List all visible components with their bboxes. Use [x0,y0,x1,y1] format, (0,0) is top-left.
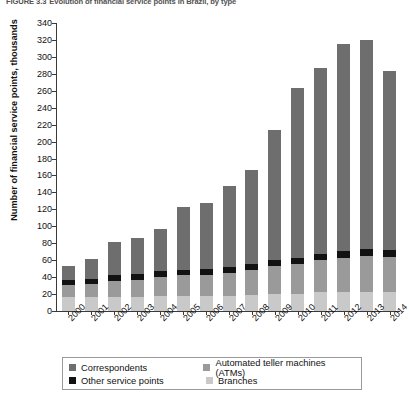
bar-segment [177,207,190,270]
legend-item-other-service-points: Other service points [69,376,206,386]
y-axis-tick-label: 300 [0,52,58,62]
bar-segment [131,280,144,297]
legend-item-atms: Automated teller machines (ATMs) [203,358,355,378]
y-axis-tick-label: 200 [0,137,58,147]
bar-2000 [62,266,75,311]
bar-segment [337,44,350,251]
y-axis-tick-mark [52,57,56,58]
bar-2009 [268,130,281,311]
y-axis-tick-mark [52,159,56,160]
bar-segment [200,203,213,268]
y-axis-tick-mark [52,294,56,295]
y-axis-tick-label: 60 [0,255,58,265]
bar-2013 [360,40,373,311]
y-axis-tick-mark [52,142,56,143]
bar-segment [291,264,304,294]
bar-segment [245,170,258,265]
bar-segment [383,257,396,292]
y-axis-tick-mark [52,243,56,244]
y-axis-tick-label: 80 [0,238,58,248]
bar-2004 [154,229,167,311]
bar-segment [337,258,350,292]
y-axis-tick-mark [52,277,56,278]
bar-2007 [223,186,236,311]
bar-segment [314,68,327,254]
bar-2012 [337,44,350,311]
figure-title: FIGURE 3.3Evolution of financial service… [6,0,402,9]
bar-segment [62,285,75,298]
bar-2003 [131,238,144,311]
y-axis-tick-label: 240 [0,103,58,113]
bar-segment [108,281,121,297]
y-axis-tick-mark [52,108,56,109]
bar-segment [62,266,75,280]
bar-segment [360,40,373,249]
bar-2006 [200,203,213,311]
y-axis-tick-mark [52,74,56,75]
y-axis-tick-label: 120 [0,204,58,214]
y-axis-tick-label: 180 [0,154,58,164]
bar-segment [154,277,167,296]
legend-swatch-atms [203,364,210,371]
bar-segment [360,256,373,292]
legend-row: Correspondents Automated teller machines… [69,361,355,374]
y-axis-tick-mark [52,91,56,92]
y-axis-tick-label: 0 [0,306,58,316]
y-axis-tick-label: 320 [0,35,58,45]
plot-region [57,23,400,311]
legend-label-other-service-points: Other service points [81,376,164,386]
bar-segment [85,259,98,278]
bar-segment [177,275,190,295]
bar-2014 [383,71,396,311]
bar-2010 [291,88,304,311]
bar-segment [108,242,121,275]
y-axis-tick-label: 20 [0,289,58,299]
y-axis-tick-label: 260 [0,86,58,96]
chart-area: Number of financial service points, thou… [0,14,406,314]
y-axis-tick-mark [52,192,56,193]
y-axis-tick-mark [52,125,56,126]
bar-2008 [245,170,258,311]
bar-segment [268,266,281,294]
bar-segment [268,130,281,260]
y-axis-tick-label: 160 [0,170,58,180]
bar-segment [245,270,258,295]
legend-label-branches: Branches [218,376,257,386]
bar-2011 [314,68,327,311]
y-axis-tick-label: 100 [0,221,58,231]
legend-swatch-branches [206,377,213,384]
figure-title-text: Evolution of financial service points in… [49,0,236,6]
legend-item-correspondents: Correspondents [69,363,203,373]
bar-segment [383,250,396,257]
legend-swatch-other-service-points [69,377,76,384]
legend-item-branches: Branches [206,376,257,386]
y-axis-tick-mark [52,260,56,261]
y-axis-tick-label: 140 [0,187,58,197]
bar-segment [360,249,373,256]
y-axis-tick-label: 340 [0,18,58,28]
y-axis-tick-mark [52,226,56,227]
bar-segment [223,273,236,296]
bar-segment [291,88,304,257]
y-axis-tick-mark [52,40,56,41]
bar-segment [383,71,396,250]
bar-segment [154,229,167,271]
y-axis-tick-mark [52,175,56,176]
bar-2005 [177,207,190,311]
bar-segment [337,251,350,258]
bar-segment [314,260,327,292]
bar-2002 [108,242,121,311]
y-axis-tick-label: 40 [0,272,58,282]
legend-label-atms: Automated teller machines (ATMs) [215,358,355,378]
y-axis-tick-label: 280 [0,69,58,79]
y-axis-tick-mark [52,209,56,210]
bar-2001 [85,259,98,311]
legend-swatch-correspondents [69,364,76,371]
chart-legend: Correspondents Automated teller machines… [62,357,362,390]
bar-segment [223,186,236,267]
legend-label-correspondents: Correspondents [81,363,147,373]
bar-segment [85,284,98,298]
y-axis-tick-mark [52,23,56,24]
bar-segment [200,275,213,296]
bar-segment [131,238,144,274]
